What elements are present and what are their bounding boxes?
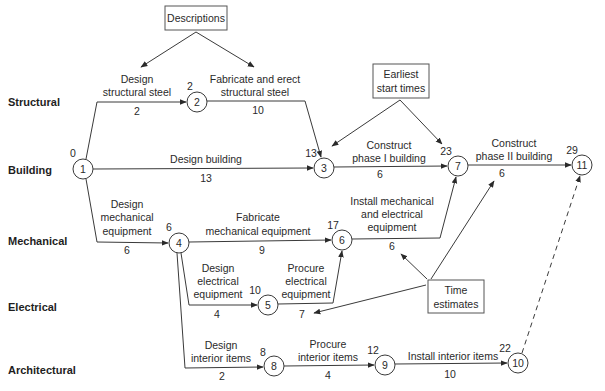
- activity-4-6-line2: mechanical equipment: [205, 225, 310, 237]
- node-7-earliest-start: 23: [440, 145, 452, 157]
- row-label-mechanical: Mechanical: [8, 235, 67, 247]
- node-3-earliest-start: 13: [305, 147, 317, 159]
- edge-3-7: [334, 166, 447, 167]
- activity-5-6-line3: equipment: [281, 288, 330, 300]
- node-1: 1 0: [70, 147, 93, 179]
- callout-earliest-start-times: Earliest start times: [373, 64, 429, 98]
- activity-6-7-duration: 6: [389, 240, 395, 252]
- activity-1-3-duration: 13: [200, 172, 212, 184]
- activity-1-4-line3: equipment: [102, 225, 151, 237]
- activity-8-9-line2: interior items: [298, 351, 358, 363]
- activity-4-5-line3: equipment: [193, 288, 242, 300]
- earliest-pointer-right: [400, 100, 442, 144]
- activity-4-5-line1: Design: [202, 262, 235, 274]
- activity-9-10-duration: 10: [444, 368, 456, 380]
- callout-earliest-line2: start times: [377, 82, 425, 94]
- activity-4-6-line1: Fabricate: [236, 211, 280, 223]
- row-label-electrical: Electrical: [8, 301, 57, 313]
- activity-5-6-line2: electrical: [285, 275, 326, 287]
- activity-6-7-line2: and electrical: [361, 208, 423, 220]
- node-6-id: 6: [339, 234, 345, 246]
- activity-7-11-line2: phase II building: [476, 150, 553, 162]
- activity-6-7-line3: equipment: [367, 221, 416, 233]
- node-6: 6 17: [327, 219, 352, 250]
- activity-9-10-line1: Install interior items: [408, 350, 498, 362]
- row-label-structural: Structural: [8, 96, 60, 108]
- callout-time-estimates: Time estimates: [428, 280, 484, 313]
- activity-4-5-line2: electrical: [197, 275, 238, 287]
- descriptions-pointer-right: [196, 32, 254, 67]
- node-4-earliest-start: 6: [166, 221, 172, 233]
- edge-4-6: [189, 240, 331, 242]
- node-2-earliest-start: 2: [187, 80, 193, 92]
- time-pointer-to-5-6: [314, 285, 426, 313]
- node-2: 2 2: [187, 80, 207, 112]
- node-8-id: 8: [271, 360, 277, 372]
- row-label-architectural: Architectural: [8, 364, 76, 376]
- activity-5-6-duration: 7: [299, 308, 305, 320]
- callout-descriptions-text: Descriptions: [167, 12, 225, 24]
- callout-descriptions: Descriptions: [165, 6, 227, 30]
- callout-time-line1: Time: [445, 284, 468, 296]
- activity-4-6-duration: 9: [259, 244, 265, 256]
- node-9-earliest-start: 12: [367, 344, 379, 356]
- callout-time-line2: estimates: [434, 298, 479, 310]
- activity-2-3-line1: Fabricate and erect: [210, 73, 301, 85]
- activity-3-7-line1: Construct: [367, 139, 412, 151]
- node-10: 10 22: [499, 342, 528, 373]
- activity-2-3-line2: structural steel: [221, 86, 289, 98]
- network-diagram: Structural Building Mechanical Electrica…: [0, 0, 605, 391]
- time-pointer-to-6: [401, 254, 427, 279]
- edge-8-9: [284, 365, 374, 366]
- node-8: 8 8: [260, 346, 284, 376]
- row-labels: Structural Building Mechanical Electrica…: [8, 96, 76, 376]
- activity-1-2-duration: 2: [134, 105, 140, 117]
- node-11-earliest-start: 29: [566, 144, 578, 156]
- activity-1-2-line2: structural steel: [103, 86, 171, 98]
- activity-6-7-line1: Install mechanical: [350, 195, 433, 207]
- activity-4-8-line2: interior items: [191, 352, 251, 364]
- node-4: 4 6: [166, 221, 189, 253]
- activity-4-8-duration: 2: [219, 370, 225, 382]
- edge-9-10: [395, 363, 507, 364]
- node-7-id: 7: [455, 160, 461, 172]
- node-2-id: 2: [194, 96, 200, 108]
- activity-1-4-duration: 6: [124, 244, 130, 256]
- activity-3-7-line2: phase I building: [352, 152, 426, 164]
- row-label-building: Building: [8, 164, 52, 176]
- node-9: 9 12: [367, 344, 395, 375]
- activity-1-4-line1: Design: [111, 198, 144, 210]
- activity-4-8-line1: Design: [205, 339, 238, 351]
- time-pointer-to-7b: [431, 181, 494, 279]
- descriptions-pointer-left: [141, 32, 196, 67]
- activity-7-11-duration: 6: [499, 167, 505, 179]
- node-5: 5 10: [249, 284, 278, 315]
- node-10-earliest-start: 22: [499, 342, 511, 354]
- node-4-id: 4: [176, 237, 182, 249]
- node-3-id: 3: [321, 162, 327, 174]
- node-1-id: 1: [80, 163, 86, 175]
- node-5-earliest-start: 10: [249, 284, 261, 296]
- activity-5-6-line1: Procure: [288, 262, 325, 274]
- node-6-earliest-start: 17: [327, 219, 339, 231]
- edge-1-3: [93, 168, 313, 169]
- node-1-earliest-start: 0: [70, 147, 76, 159]
- activity-4-5-duration: 4: [214, 308, 220, 320]
- node-9-id: 9: [382, 359, 388, 371]
- callout-earliest-line1: Earliest: [383, 68, 418, 80]
- node-8-earliest-start: 8: [260, 346, 266, 358]
- edge-2-3: [207, 101, 321, 157]
- activity-7-11-line1: Construct: [492, 137, 537, 149]
- activity-8-9-line1: Procure: [310, 338, 347, 350]
- activity-1-4-line2: mechanical: [100, 211, 153, 223]
- activity-3-7-duration: 6: [377, 168, 383, 180]
- edge-10-11-dummy: [522, 176, 580, 353]
- node-11-id: 11: [577, 159, 588, 171]
- activity-1-3-line1: Design building: [170, 153, 242, 165]
- node-5-id: 5: [265, 299, 271, 311]
- activity-1-2-line1: Design: [121, 73, 154, 85]
- activity-8-9-duration: 4: [325, 369, 331, 381]
- node-7: 7 23: [440, 145, 468, 176]
- node-11: 11 29: [566, 144, 592, 175]
- node-10-id: 10: [512, 357, 524, 369]
